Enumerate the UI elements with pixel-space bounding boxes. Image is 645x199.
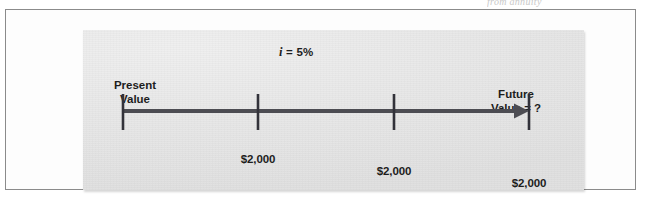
clipped-caption-fragment: from annuity [487,0,607,7]
timeline-arrowhead [514,104,529,119]
timeline-axis [83,30,584,190]
timeline-figure-panel: i = 5% Present Value Future Value = ? $2… [83,30,584,190]
figure-frame: i = 5% Present Value Future Value = ? $2… [5,9,636,190]
